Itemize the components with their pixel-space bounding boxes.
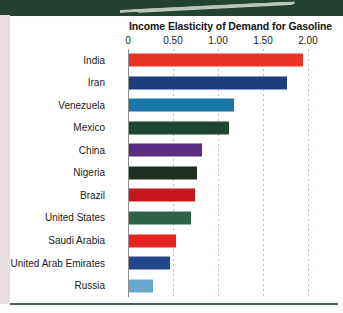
- category-label: Brazil: [0, 190, 105, 201]
- category-label: Mexico: [0, 122, 105, 133]
- category-label: Russia: [0, 280, 105, 291]
- bar[interactable]: [129, 99, 234, 112]
- x-tick-label: 2.00: [298, 35, 317, 46]
- bar-row: United States: [10, 207, 343, 230]
- figure-page: Income Elasticity of Demand for Gasoline…: [0, 0, 343, 313]
- bar[interactable]: [129, 144, 202, 157]
- bar[interactable]: [129, 76, 287, 89]
- bar[interactable]: [129, 234, 176, 247]
- bar-row: Venezuela: [10, 94, 343, 117]
- top-banner: [0, 0, 343, 16]
- category-label: China: [0, 145, 105, 156]
- chart-container: Income Elasticity of Demand for Gasoline…: [10, 17, 343, 302]
- bar[interactable]: [129, 121, 229, 134]
- x-tick-label: 0: [125, 35, 131, 46]
- plot-area: 00.501.001.502.00 IndiaIranVenezuelaMexi…: [10, 35, 343, 297]
- x-tick-label: 1.00: [208, 35, 227, 46]
- bar[interactable]: [129, 279, 153, 292]
- category-label: India: [0, 55, 105, 66]
- bar-row: Iran: [10, 72, 343, 95]
- bar-row: India: [10, 49, 343, 72]
- bar-row: Russia: [10, 274, 343, 297]
- bar-row: Nigeria: [10, 162, 343, 185]
- bar-row: China: [10, 139, 343, 162]
- bar-row: Mexico: [10, 117, 343, 140]
- bar-rows: IndiaIranVenezuelaMexicoChinaNigeriaBraz…: [10, 49, 343, 297]
- x-axis-tick-labels: 00.501.001.502.00: [10, 35, 343, 49]
- category-label: United States: [0, 212, 105, 223]
- category-label: Saudi Arabia: [0, 235, 105, 246]
- category-label: Nigeria: [0, 167, 105, 178]
- category-label: Venezuela: [0, 100, 105, 111]
- bar-row: Brazil: [10, 184, 343, 207]
- bar[interactable]: [129, 257, 170, 270]
- bar[interactable]: [129, 189, 195, 202]
- bottom-rule: [10, 303, 338, 305]
- category-label: United Arab Emirates: [0, 258, 105, 269]
- bar-row: Saudi Arabia: [10, 229, 343, 252]
- banner-diagonal-stripe-shadow: [120, 1, 295, 13]
- bar[interactable]: [129, 211, 191, 224]
- chart-title: Income Elasticity of Demand for Gasoline: [118, 20, 343, 32]
- category-label: Iran: [0, 77, 105, 88]
- bar-row: United Arab Emirates: [10, 252, 343, 275]
- x-tick-label: 0.50: [163, 35, 182, 46]
- x-tick-label: 1.50: [253, 35, 272, 46]
- bar[interactable]: [129, 166, 197, 179]
- bar[interactable]: [129, 54, 303, 67]
